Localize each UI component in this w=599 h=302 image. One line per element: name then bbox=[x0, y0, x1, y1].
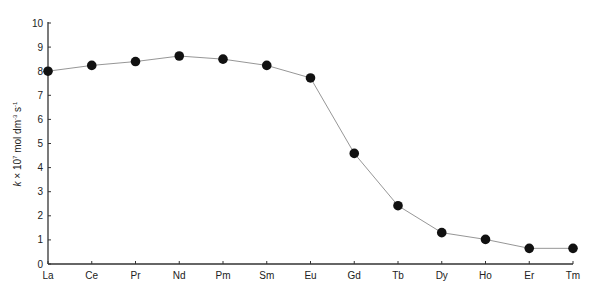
data-point bbox=[306, 73, 316, 83]
data-point bbox=[174, 51, 184, 61]
x-tick-label: Eu bbox=[304, 270, 316, 281]
data-point bbox=[349, 149, 359, 159]
data-markers bbox=[43, 51, 578, 253]
y-axis: 012345678910 bbox=[32, 18, 51, 270]
y-tick-label: 1 bbox=[37, 234, 43, 245]
data-point bbox=[218, 54, 228, 64]
line-chart: 012345678910 LaCePrNdPmSmEuGdTbDyHoErTm … bbox=[0, 0, 599, 302]
x-tick-label: Nd bbox=[173, 270, 186, 281]
x-tick-label: Pr bbox=[131, 270, 142, 281]
y-tick-label: 4 bbox=[37, 162, 43, 173]
y-tick-label: 8 bbox=[37, 66, 43, 77]
y-tick-label: 7 bbox=[37, 90, 43, 101]
data-point bbox=[87, 61, 97, 71]
y-tick-label: 9 bbox=[37, 42, 43, 53]
y-tick-label: 0 bbox=[37, 259, 43, 270]
data-point bbox=[131, 57, 141, 67]
x-tick-label: La bbox=[42, 270, 54, 281]
x-tick-label: Pm bbox=[216, 270, 231, 281]
data-point bbox=[568, 244, 578, 254]
y-tick-label: 6 bbox=[37, 114, 43, 125]
x-tick-label: Ce bbox=[85, 270, 98, 281]
x-tick-label: Sm bbox=[259, 270, 274, 281]
y-tick-label: 2 bbox=[37, 210, 43, 221]
data-point bbox=[393, 201, 403, 211]
x-tick-label: Tm bbox=[566, 270, 580, 281]
x-tick-label: Gd bbox=[348, 270, 361, 281]
series-line bbox=[48, 56, 573, 248]
data-point bbox=[437, 228, 447, 238]
data-point bbox=[43, 66, 53, 76]
data-point bbox=[262, 61, 272, 71]
data-point bbox=[481, 235, 491, 245]
x-tick-label: Dy bbox=[436, 270, 448, 281]
x-tick-label: Ho bbox=[479, 270, 492, 281]
x-axis: LaCePrNdPmSmEuGdTbDyHoErTm bbox=[42, 261, 580, 281]
y-tick-label: 10 bbox=[32, 18, 44, 29]
y-tick-label: 5 bbox=[37, 138, 43, 149]
x-tick-label: Er bbox=[524, 270, 535, 281]
x-tick-label: Tb bbox=[392, 270, 404, 281]
y-tick-label: 3 bbox=[37, 186, 43, 197]
y-axis-title: k × 107 mol dm-3 s-1 bbox=[12, 101, 23, 187]
data-point bbox=[524, 244, 534, 254]
